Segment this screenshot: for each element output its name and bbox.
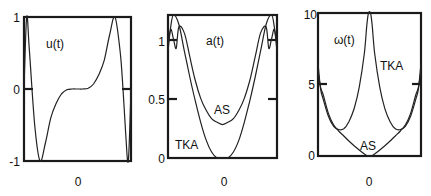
y-tick-label: 1 (158, 35, 165, 49)
y-tick-label: 1 (13, 11, 20, 25)
x-tick-label: 0 (75, 175, 82, 189)
annotation-omega-tka: TKA (380, 59, 403, 73)
x-tick-label: 0 (221, 175, 228, 189)
annotation-omega-title: ω(t) (334, 33, 355, 47)
y-tick-label: -1 (9, 155, 20, 169)
x-tick-label: 0 (366, 175, 373, 189)
y-tick-label: 0 (13, 83, 20, 97)
series-u (24, 16, 131, 163)
y-tick-label: 0 (308, 149, 315, 163)
y-tick-label: 0 (158, 152, 165, 166)
annotation-a-tka: TKA (175, 138, 198, 152)
panel-omega: 10 5 0 0 ω(t) TKA AS (304, 8, 421, 189)
series-omega-tka (318, 12, 421, 130)
annotation-a-title: a(t) (206, 34, 224, 48)
y-tick-label: 5 (308, 78, 315, 92)
annotation-a-as: AS (214, 103, 230, 117)
annotation-omega-as: AS (360, 139, 376, 153)
annotation-u-title: u(t) (46, 37, 64, 51)
panel-u: 1 0 -1 0 u(t) (9, 11, 131, 189)
y-tick-label: 0.5 (148, 93, 165, 107)
chart-canvas: 1 0 -1 0 u(t) 1 0.5 0 0 a(t) AS TKA 10 5… (0, 0, 431, 196)
panel-a: 1 0.5 0 0 a(t) AS TKA (148, 15, 277, 189)
y-tick-label: 10 (304, 8, 318, 22)
